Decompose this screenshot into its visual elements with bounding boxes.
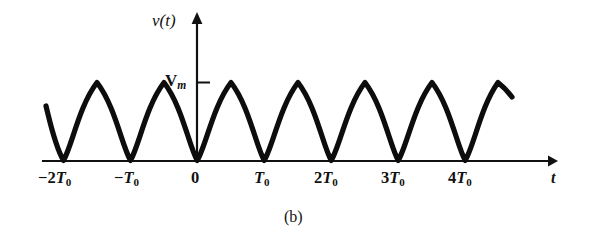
rectified-sine-curve <box>46 83 512 161</box>
x-tick-label-2T0: 2T0 <box>314 170 338 187</box>
x-tick-symbol: 0 <box>191 168 199 187</box>
amplitude-label: Vm <box>165 72 186 89</box>
x-tick-symbol: T <box>123 168 133 187</box>
amplitude-label-symbol: V <box>165 71 177 90</box>
x-tick-label-zero: 0 <box>191 170 199 187</box>
x-tick-symbol: T <box>322 168 332 187</box>
x-tick-symbol: T <box>56 168 66 187</box>
x-tick-subscript: 0 <box>332 176 338 188</box>
x-tick-prefix: −2 <box>38 168 56 187</box>
x-tick-subscript: 0 <box>399 176 405 188</box>
x-tick-prefix: − <box>114 168 123 187</box>
x-tick-prefix: 4 <box>448 168 456 187</box>
y-axis-label: v(t) <box>152 12 176 29</box>
x-tick-subscript: 0 <box>134 176 140 188</box>
figure-caption: (b) <box>284 209 303 225</box>
x-tick-prefix: 2 <box>314 168 322 187</box>
x-tick-label-minus-T0: −T0 <box>114 170 139 187</box>
x-axis-arrowhead <box>548 156 558 167</box>
y-axis-arrowhead <box>192 12 203 24</box>
x-tick-subscript: 0 <box>66 176 72 188</box>
waveform-plot <box>0 0 591 237</box>
x-axis-label: t <box>551 170 555 186</box>
x-tick-symbol: T <box>254 168 264 187</box>
x-tick-label-minus-2T0: −2T0 <box>38 170 71 187</box>
x-tick-prefix: 3 <box>381 168 389 187</box>
figure-container: v(t) Vm −2T0 −T0 0 T0 2T0 3T0 4T0 t (b) <box>0 0 591 237</box>
amplitude-label-subscript: m <box>177 79 186 91</box>
x-tick-subscript: 0 <box>466 176 472 188</box>
x-tick-label-3T0: 3T0 <box>381 170 405 187</box>
x-tick-label-T0: T0 <box>254 170 270 187</box>
x-tick-label-4T0: 4T0 <box>448 170 472 187</box>
x-tick-symbol: T <box>456 168 466 187</box>
x-tick-subscript: 0 <box>264 176 270 188</box>
x-tick-symbol: T <box>389 168 399 187</box>
